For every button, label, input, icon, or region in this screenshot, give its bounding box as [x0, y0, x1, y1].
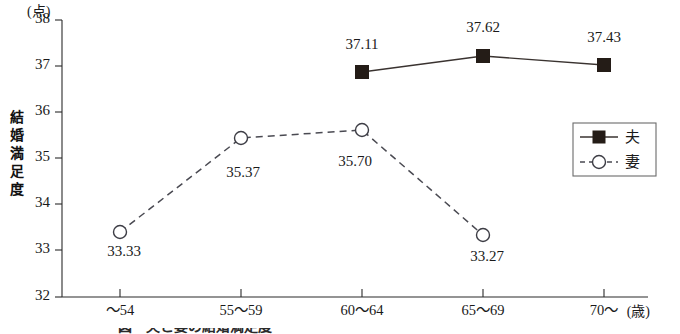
- x-axis-ticks: [120, 289, 604, 297]
- x-tick-label-1: ～54: [106, 302, 135, 318]
- value-label-wife-1: 33.33: [107, 243, 141, 259]
- y-tick-label-34: 34: [35, 194, 51, 210]
- y-axis-title-char-2: 婚: [10, 127, 24, 143]
- y-axis-title-char-1: 結: [10, 109, 24, 125]
- figure-caption: 図 夫と妻の結婚満足度: [118, 328, 272, 334]
- y-axis-title-char-3: 満: [10, 145, 24, 161]
- data-point-wife-3: [356, 124, 369, 137]
- y-axis-title: 結 婚 満 足 度: [10, 109, 25, 197]
- data-point-wife-4: [477, 229, 490, 242]
- chart-container: 38 37 36 35 34 33 32 (点) 結 婚 満 足 度 ～54 5…: [0, 0, 680, 334]
- y-tick-label-32: 32: [35, 287, 50, 303]
- value-label-husband-1: 37.11: [345, 36, 378, 52]
- y-axis-unit-label: (点): [27, 4, 51, 20]
- value-label-wife-4: 33.27: [470, 248, 504, 264]
- data-point-wife-2: [235, 132, 248, 145]
- y-tick-label-33: 33: [35, 240, 50, 256]
- legend-label-wife: 妻: [625, 153, 640, 170]
- legend-box: [573, 123, 656, 176]
- x-axis-unit-label: (歳): [627, 304, 651, 320]
- legend-marker-square-icon: [593, 131, 605, 143]
- series-line-wife: [120, 130, 483, 235]
- y-tick-label-36: 36: [35, 102, 51, 118]
- y-tick-label-35: 35: [35, 148, 50, 164]
- legend-label-husband: 夫: [625, 128, 640, 145]
- marriage-satisfaction-line-chart: 38 37 36 35 34 33 32 (点) 結 婚 満 足 度 ～54 5…: [0, 0, 680, 334]
- data-point-husband-3: [598, 59, 611, 72]
- legend-marker-circle-icon: [593, 156, 606, 169]
- y-axis-title-char-5: 度: [10, 181, 25, 197]
- legend[interactable]: 夫 妻: [573, 123, 656, 176]
- y-axis-ticks: [55, 20, 62, 297]
- data-point-husband-1: [356, 66, 369, 79]
- value-label-husband-3: 37.43: [587, 29, 621, 45]
- data-point-wife-1: [114, 226, 127, 239]
- value-label-wife-2: 35.37: [226, 164, 260, 180]
- x-tick-label-4: 65～69: [462, 302, 505, 318]
- x-tick-label-2: 55～59: [220, 302, 263, 318]
- data-point-husband-2: [477, 50, 490, 63]
- value-label-husband-2: 37.62: [466, 19, 500, 35]
- figure-caption-strip: 図 夫と妻の結婚満足度: [0, 328, 680, 334]
- y-axis-title-char-4: 足: [10, 163, 25, 179]
- x-tick-label-3: 60～64: [341, 302, 385, 318]
- value-label-wife-3: 35.70: [338, 153, 372, 169]
- y-tick-label-37: 37: [35, 56, 51, 72]
- x-tick-label-5: 70～: [590, 302, 619, 318]
